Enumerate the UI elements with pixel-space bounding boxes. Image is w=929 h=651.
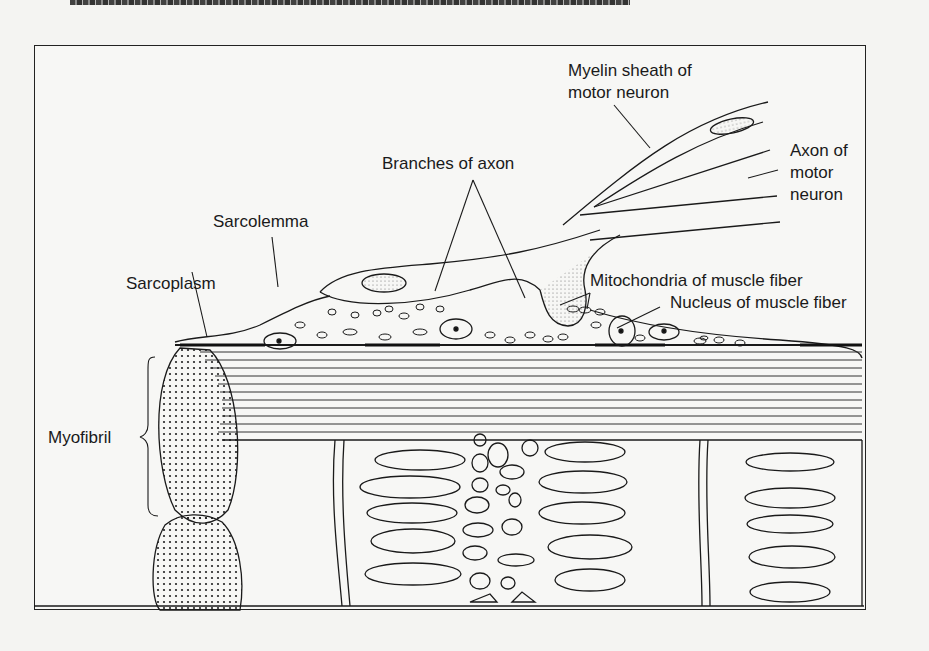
label-axon-line3: neuron (790, 184, 843, 205)
label-myofibril: Myofibril (48, 427, 111, 448)
sarcoplasmic-reticulum (360, 442, 835, 602)
label-sarcolemma: Sarcolemma (213, 211, 308, 232)
myofibril-cross-section (159, 348, 238, 523)
label-branches-of-axon: Branches of axon (382, 153, 514, 174)
muscle-fiber-illustration (0, 0, 929, 651)
t-tubule-network (463, 434, 538, 602)
label-axon-line2: motor (790, 162, 833, 183)
label-myelin-sheath-line1: Myelin sheath of (568, 60, 692, 81)
label-axon-line1: Axon of (790, 140, 848, 161)
label-myelin-sheath-line2: motor neuron (568, 82, 669, 103)
label-sarcoplasm: Sarcoplasm (126, 273, 216, 294)
label-mitochondria: Mitochondria of muscle fiber (590, 270, 803, 291)
label-nucleus: Nucleus of muscle fiber (670, 292, 847, 313)
